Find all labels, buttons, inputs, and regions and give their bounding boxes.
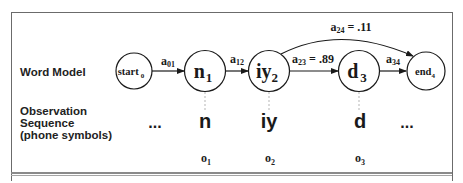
observation-index-o3: o3 bbox=[355, 151, 365, 167]
state-d: d3 bbox=[339, 51, 380, 92]
state-start-label: start bbox=[118, 66, 139, 77]
state-iy-label: iy bbox=[256, 60, 272, 83]
observation-leading-ellipsis: ... bbox=[148, 114, 161, 132]
observation-trailing-ellipsis: ... bbox=[400, 114, 413, 132]
state-n: n1 bbox=[185, 51, 226, 92]
observation-index-o2: o2 bbox=[265, 151, 275, 167]
observation-index-o1: o1 bbox=[201, 151, 211, 167]
state-start: start0 bbox=[116, 53, 152, 89]
edge-label-a23: a23 = .89 bbox=[292, 52, 334, 67]
state-end-label: end bbox=[415, 66, 432, 77]
state-end: end4 bbox=[407, 52, 445, 90]
state-n-label: n bbox=[194, 60, 205, 82]
edge-label-a01: a01 bbox=[161, 54, 175, 69]
observation-symbol-n: n bbox=[199, 110, 211, 133]
hmm-word-model-diagram: Word Model Observation Sequence (phone s… bbox=[0, 0, 463, 183]
edge-label-a12: a12 bbox=[230, 52, 244, 67]
state-graph: start0 n1 iy2 d3 end4 a01 a12 a23 = .89 … bbox=[0, 0, 463, 183]
state-iy: iy2 bbox=[249, 51, 290, 92]
observation-symbol-iy: iy bbox=[261, 110, 278, 133]
state-d-label: d bbox=[347, 60, 358, 82]
edge-label-a24: a24 = .11 bbox=[330, 20, 371, 35]
edge-iy-end bbox=[281, 39, 413, 56]
edge-label-a34: a34 bbox=[386, 52, 400, 67]
observation-symbol-d: d bbox=[354, 110, 366, 133]
